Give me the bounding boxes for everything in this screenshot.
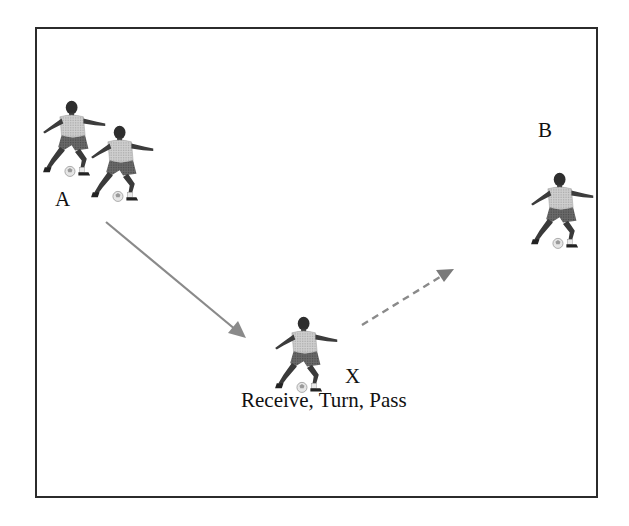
player-b-icon [524,172,602,256]
player-a-2-icon [84,125,162,209]
label-a: A [55,189,70,210]
drill-caption: Receive, Turn, Pass [241,390,407,411]
pass-arrow-a-to-x [106,222,246,338]
label-b: B [538,120,552,141]
pass-arrow-x-to-b [362,269,454,325]
label-x: X [345,366,360,387]
drill-arrows [0,0,629,526]
